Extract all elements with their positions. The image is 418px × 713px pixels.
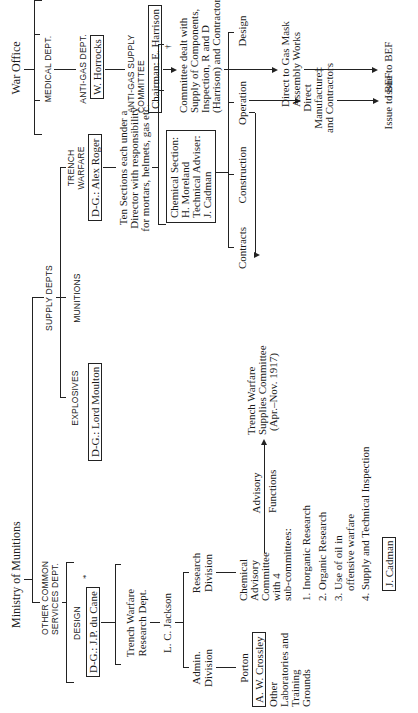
connector xyxy=(54,69,76,70)
connector xyxy=(183,573,184,668)
connector xyxy=(216,572,236,573)
war-office-title: War Office xyxy=(10,33,22,103)
connector xyxy=(228,32,234,33)
admin-line1: Admin. xyxy=(190,643,202,693)
medical-dept-label: MEDICAL DEPT. xyxy=(43,33,53,105)
tw-line2: WARFARE xyxy=(76,133,86,203)
direct-manufacture: Direct Manufacture‡ and Contractors xyxy=(302,58,335,138)
cd-line4: (Harrison) and Contractors xyxy=(211,0,222,113)
explosives-head: D-G.: Lord Moulton xyxy=(89,367,101,457)
research-line1: Research xyxy=(190,545,202,601)
connector xyxy=(115,564,121,565)
ministry-title: Ministry of Munitions xyxy=(10,521,22,628)
connector xyxy=(175,622,183,623)
design-head-box: D-G.: J.P. du Cane xyxy=(86,587,100,677)
anti-gas-head: W. Horrocks xyxy=(91,39,103,95)
advisory-functions: Functions xyxy=(266,470,278,513)
connector xyxy=(183,667,189,668)
research-division: Research Division xyxy=(190,545,214,601)
gas-mask-works: Direct to Gas Mask Assembly Works xyxy=(280,21,302,107)
sub-unit-contracts: Contracts xyxy=(236,218,248,278)
connector xyxy=(228,102,234,103)
connector xyxy=(24,579,32,580)
connector xyxy=(32,297,44,298)
connector xyxy=(183,572,189,573)
subcommittee-1: 1. Inorganic Research xyxy=(300,446,313,601)
connector xyxy=(60,297,66,298)
connector xyxy=(216,172,228,173)
tw-research-dept: Trench Warfare Research Dept. xyxy=(124,573,148,673)
org-chart: Ministry of Munitions OTHER COMMON SERVI… xyxy=(0,0,418,713)
design-asterisk: * xyxy=(80,575,92,580)
supply-depts-label: SUPPLY DEPTS xyxy=(44,253,54,343)
tw-research-line1: Trench Warfare xyxy=(124,573,136,673)
ten-sections-desc: Ten Sections each under a Director with … xyxy=(118,93,151,243)
chemical-advisory-committee: Chemical Advisory Committee with 4 sub-c… xyxy=(238,528,293,601)
arrow-down-icon xyxy=(272,67,278,73)
arrow-down-icon xyxy=(373,98,379,104)
chairman: Chairman: E. Harrison xyxy=(149,9,161,109)
connector xyxy=(60,397,66,398)
connector xyxy=(228,33,229,248)
subcommittee-3b: offensive warfare xyxy=(345,446,355,591)
porton-head-box: A. W. Crossley xyxy=(252,632,266,707)
connector xyxy=(101,622,115,623)
connector xyxy=(66,563,67,683)
porton: Porton xyxy=(238,638,250,698)
tw-line1: TRENCH xyxy=(66,133,76,203)
connector xyxy=(228,247,234,248)
connector xyxy=(66,562,74,563)
chemical-section-box: Chemical Section: H. Moreland Technical … xyxy=(166,130,216,223)
connector xyxy=(34,34,40,35)
dm-line3: and Contractors xyxy=(324,58,335,138)
advisory-label: Advisory xyxy=(250,453,262,533)
anti-gas-supply-committee: ANTI-GAS SUPPLY COMMITTEE xyxy=(126,17,146,113)
tw-research-line2: Research Dept. xyxy=(136,573,148,673)
lc-jackson: L. C. Jackson xyxy=(161,583,173,663)
subcommittee-2: 2. Organic Research xyxy=(316,446,329,601)
research-line2: Division xyxy=(202,545,214,601)
design-label: DESIGN xyxy=(72,593,82,653)
connector xyxy=(34,100,40,101)
trench-warfare-label: TRENCH WARFARE xyxy=(66,133,86,203)
arrow-right-icon xyxy=(261,439,267,445)
explosives-head-box: D-G.: Lord Moulton xyxy=(88,363,102,461)
other-labs-line4: Grounds xyxy=(301,633,312,707)
subcommittee-head: J. Cadman xyxy=(383,541,395,587)
sub-unit-operation: Operation xyxy=(236,71,248,135)
cac-line5: sub-committees: xyxy=(282,528,293,601)
connector xyxy=(34,134,42,135)
connector xyxy=(103,167,116,168)
advisory-arrow-line xyxy=(264,443,265,553)
issue-bef-war-office: Issue to BEF xyxy=(382,30,394,110)
connector xyxy=(228,174,234,175)
connector xyxy=(150,622,160,623)
tw-supplies-committee: Trench Warfare Supplies Committee (Apr.–… xyxy=(246,345,279,435)
anti-gas-dept-label: ANTI-GAS DEPT. xyxy=(78,30,88,108)
design-head: D-G.: J.P. du Cane xyxy=(87,591,99,673)
connector xyxy=(32,298,33,603)
dagger-mark: † xyxy=(162,45,174,50)
chairman-box: Chairman: E. Harrison xyxy=(148,5,162,113)
other-labs: Other Laboratories and Training Grounds xyxy=(268,633,312,707)
subcommittee-head-box: J. Cadman xyxy=(382,537,396,591)
other-services-label: OTHER COMMON SERVICES DEPT. xyxy=(40,565,60,635)
connector xyxy=(34,0,42,1)
connector xyxy=(304,69,374,70)
subcommittee-list: 1. Inorganic Research 2. Organic Researc… xyxy=(300,446,372,601)
arrow-down-icon xyxy=(372,67,378,73)
connector xyxy=(60,168,61,398)
subcommittee-4: 4. Supply and Technical Inspection xyxy=(359,446,372,601)
connector xyxy=(105,69,125,70)
sub-unit-construction: Construction xyxy=(236,137,248,213)
munitions-label: MUNITIONS xyxy=(72,263,82,333)
other-services-line2: SERVICES DEPT. xyxy=(50,565,60,635)
agsc-line1: ANTI-GAS SUPPLY xyxy=(126,17,136,113)
connector xyxy=(255,113,256,255)
connector xyxy=(66,682,74,683)
chem-line4: J. Cadman xyxy=(202,135,213,218)
connector xyxy=(32,602,40,603)
admin-line2: Division xyxy=(202,643,214,693)
connector xyxy=(24,69,34,70)
connector xyxy=(115,664,121,665)
